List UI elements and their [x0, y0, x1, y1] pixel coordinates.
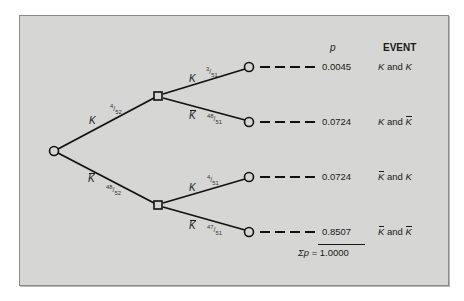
- outcome-event-2: K and K: [378, 116, 412, 127]
- outcome-event-1: K and K: [378, 61, 412, 72]
- outcome-event-4: K and K: [378, 226, 412, 237]
- fraction-4-51: 4/51: [207, 174, 219, 186]
- branch-label-kbar-k: K: [189, 182, 196, 193]
- fraction-3-51: 3/51: [206, 66, 218, 78]
- fraction-47-51: 47/51: [207, 224, 222, 236]
- branch-line-k-kbar: [163, 98, 245, 120]
- outcome-p-4: 0.8507: [322, 226, 351, 237]
- end-node-circle-icon: [245, 118, 254, 127]
- sum-rule-line: [318, 244, 365, 245]
- fraction-48-52: 48/52: [106, 184, 121, 196]
- end-node-circle-icon: [245, 173, 254, 182]
- root-node-circle-icon: [50, 147, 59, 156]
- outcome-p-3: 0.0724: [322, 171, 351, 182]
- outcome-p-1: 0.0045: [322, 61, 351, 72]
- branch-line-k-k: [163, 69, 245, 94]
- header-p: p: [330, 42, 336, 53]
- fraction-48-51: 48/51: [207, 113, 222, 125]
- end-node-circle-icon: [245, 63, 254, 72]
- branch-label-kbar: K: [88, 173, 95, 184]
- branch-label-k-k: K: [189, 73, 196, 84]
- branch-label-k-kbar: K: [189, 110, 196, 121]
- outcome-event-3: K and K: [378, 171, 412, 182]
- branch-line-k: [58, 98, 154, 149]
- branch-label-kbar-kbar: K: [189, 220, 196, 231]
- node-square-kbar-icon: [154, 201, 162, 209]
- node-square-k-icon: [154, 92, 162, 100]
- branch-line-kbar-kbar: [163, 207, 245, 230]
- outcome-p-2: 0.0724: [322, 116, 351, 127]
- header-event: EVENT: [383, 42, 416, 53]
- sum-total: Σp = 1.0000: [298, 247, 349, 258]
- branch-label-k: K: [89, 115, 96, 126]
- fraction-4-52: 4/52: [110, 103, 122, 115]
- branch-line-kbar-k: [163, 179, 245, 203]
- end-node-circle-icon: [245, 228, 254, 237]
